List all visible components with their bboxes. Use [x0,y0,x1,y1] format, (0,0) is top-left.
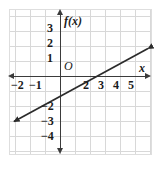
x-axis-label: x [139,62,145,74]
x-tick-label-neg1: −1 [29,79,42,91]
y-tick-label-neg2: −2 [41,100,54,112]
x-tick-label-5: 5 [128,79,134,91]
x-tick-label-4: 4 [113,79,119,91]
x-tick-label-neg2: −2 [11,79,24,91]
x-tick-label-3: 3 [98,79,104,91]
y-tick-label-2: 2 [47,37,53,49]
y-tick-label-3: 3 [47,22,53,34]
y-tick-label-1: 1 [47,52,53,64]
y-tick-label-neg3: −3 [41,115,54,127]
y-tick-label-neg4: −4 [41,130,54,142]
origin-label: O [64,60,73,72]
coordinate-plane-figure: f(x) x O 3 2 1 −2 −3 −4 −2 −1 2 3 4 5 [0,0,161,169]
x-tick-label-2: 2 [83,79,89,91]
y-axis-label: f(x) [64,15,82,27]
